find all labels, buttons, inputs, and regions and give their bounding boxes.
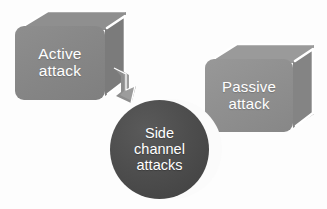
side-channel-attacks-label: Side channel attacks: [134, 125, 185, 175]
diagram-canvas: Active attack Passive attack S: [0, 0, 327, 209]
node-side-channel-attacks[interactable]: Side channel attacks: [104, 96, 222, 204]
active-attack-label: Active attack: [38, 46, 81, 79]
side-channel-front-disc: Side channel attacks: [110, 100, 209, 199]
passive-attack-label: Passive attack: [222, 79, 276, 111]
active-attack-face: Active attack: [15, 26, 105, 100]
